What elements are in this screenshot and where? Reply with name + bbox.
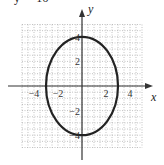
x-tick-label: 2 bbox=[104, 88, 109, 99]
y-axis-arrow-icon bbox=[79, 9, 85, 17]
y-tick-label: 4 bbox=[75, 32, 80, 43]
y-tick-label: −4 bbox=[69, 130, 80, 141]
x-tick-label: −2 bbox=[53, 88, 64, 99]
y-tick-label: 2 bbox=[75, 56, 80, 67]
x-tick-label: −4 bbox=[29, 88, 40, 99]
x-axis-arrow-icon bbox=[145, 83, 153, 89]
y-tick-label: −2 bbox=[69, 106, 80, 117]
x-axis-label: x bbox=[150, 90, 157, 104]
title-fragment: y² = 16 bbox=[14, 0, 48, 5]
x-tick-label: 4 bbox=[128, 88, 133, 99]
axes bbox=[8, 9, 153, 160]
y-axis-label: y bbox=[87, 2, 94, 16]
ellipse-chart: y² = 16 −4−22442−2−4 x y bbox=[0, 0, 164, 165]
